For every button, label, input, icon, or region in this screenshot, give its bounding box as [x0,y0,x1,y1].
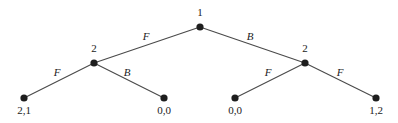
payoff-leaf-3: 0,0 [228,104,242,116]
payoff-leaf-2: 0,0 [157,104,171,116]
action-label-root-right: B [247,30,254,42]
root-player-label: 1 [197,6,203,18]
game-tree-diagram: 1 2 2 F B F B F F 2,1 0,0 0,0 1,2 [0,0,398,123]
payoff-leaf-1: 2,1 [17,104,31,116]
leaf-node-1 [20,94,27,101]
root-node [196,23,203,30]
action-label-left-lr: B [124,66,131,78]
leaf-node-4 [372,94,379,101]
action-label-right-rr: F [336,66,344,78]
payoff-leaf-4: 1,2 [369,104,383,116]
right-decision-node [301,59,308,66]
action-label-left-ll: F [53,66,61,78]
left-decision-node [90,59,97,66]
left-player-label: 2 [91,42,97,54]
right-player-label: 2 [302,42,308,54]
leaf-node-2 [160,94,167,101]
action-label-root-left: F [142,30,150,42]
action-label-right-rl: F [264,66,272,78]
leaf-node-3 [231,94,238,101]
